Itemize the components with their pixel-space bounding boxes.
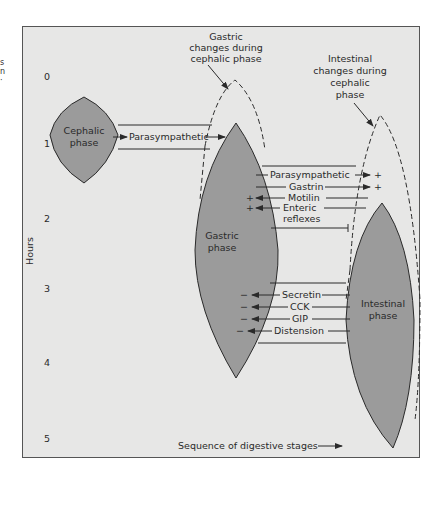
svg-text:+: + [246, 202, 254, 213]
svg-text:reflexes: reflexes [283, 213, 320, 224]
cephalic-parasympathetic-label: Parasympathetic [129, 131, 209, 142]
svg-text:CCK: CCK [290, 301, 310, 312]
intestinal-phase-shape [346, 203, 414, 448]
svg-text:−: − [236, 325, 244, 336]
cephalic-label: Cephalic [64, 125, 105, 136]
y-tick-4: 4 [44, 357, 50, 368]
y-tick-0: 0 [44, 71, 50, 82]
intestinal-label: Intestinal [361, 298, 405, 309]
svg-text:+: + [374, 181, 382, 192]
svg-text:Parasympathetic: Parasympathetic [270, 169, 350, 180]
y-tick-1: 1 [44, 138, 50, 149]
x-axis-label: Sequence of digestive stages [178, 440, 318, 451]
svg-text:Secretin: Secretin [282, 289, 321, 300]
gastric-cephalic-annotation: Gastric [209, 31, 243, 42]
svg-text:Gastrin: Gastrin [289, 181, 323, 192]
svg-text:cephalic phase: cephalic phase [190, 53, 261, 64]
svg-text:−: − [240, 301, 248, 312]
y-tick-5: 5 [44, 433, 50, 444]
intestinal-cephalic-annotation: Intestinal [328, 53, 372, 64]
digestive-phases-diagram: 0 1 2 3 4 5 Hours Cephalic phase Parasym… [0, 0, 434, 505]
svg-text:changes during: changes during [189, 42, 263, 53]
cephalic-label: phase [70, 137, 99, 148]
y-tick-3: 3 [44, 283, 50, 294]
svg-text:Distension: Distension [274, 325, 324, 336]
svg-text:phase: phase [336, 89, 365, 100]
svg-text:−: − [240, 289, 248, 300]
y-axis-label: Hours [24, 237, 35, 265]
gastric-label: Gastric [205, 230, 239, 241]
svg-text:+: + [374, 169, 382, 180]
gastric-to-intestinal-signals: Parasympathetic + Gastrin + [256, 166, 382, 192]
svg-text:cephalic: cephalic [330, 77, 369, 88]
svg-text:GIP: GIP [292, 313, 308, 324]
y-axis: 0 1 2 3 4 5 Hours [24, 71, 50, 444]
intestinal-label: phase [369, 310, 398, 321]
y-tick-2: 2 [44, 213, 50, 224]
svg-text:changes during: changes during [313, 65, 387, 76]
svg-text:Enteric: Enteric [283, 202, 316, 213]
svg-text:−: − [240, 313, 248, 324]
gastric-label: phase [208, 242, 237, 253]
